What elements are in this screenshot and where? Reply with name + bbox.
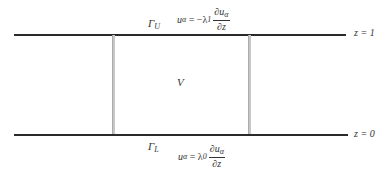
upper-boundary-line [14, 34, 346, 36]
eq-coef-sub: 0 [203, 152, 207, 161]
left-side-line [112, 35, 115, 134]
eq-frac-num-text: ∂u [210, 143, 220, 154]
right-side-line [248, 35, 251, 134]
region-label: V [177, 76, 184, 88]
eq-fraction: ∂uα ∂z [209, 143, 225, 169]
gamma-subscript: L [154, 145, 158, 154]
lower-boundary-label: ΓL [148, 140, 159, 154]
lower-level-label: z = 0 [354, 128, 375, 139]
eq-frac-den: ∂z [212, 158, 221, 169]
eq-frac-num-sub: α [224, 10, 228, 19]
eq-frac-num: ∂uα [209, 143, 225, 158]
upper-level-label: z = 1 [354, 27, 375, 38]
lower-boundary-equation: uα = λ0 ∂uα ∂z [178, 143, 225, 169]
eq-coef-sub: 1 [207, 15, 211, 24]
gamma-subscript: U [154, 22, 160, 31]
lower-boundary-line [14, 134, 348, 136]
upper-boundary-label: ΓU [148, 17, 160, 31]
eq-frac-num-sub: α [220, 147, 224, 156]
eq-frac-num-text: ∂u [214, 6, 224, 17]
eq-fraction: ∂uα ∂z [213, 6, 229, 32]
eq-op: = −λ [186, 14, 207, 25]
upper-boundary-equation: uα = −λ1 ∂uα ∂z [177, 6, 230, 32]
eq-frac-den: ∂z [217, 21, 226, 32]
eq-frac-num: ∂uα [213, 6, 229, 21]
eq-op: = λ [187, 151, 203, 162]
